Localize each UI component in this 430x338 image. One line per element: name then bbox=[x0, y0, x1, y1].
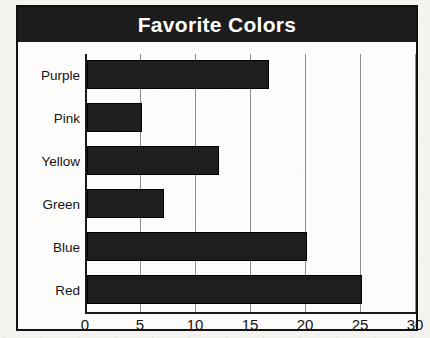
bar-series bbox=[87, 54, 417, 312]
x-tick-label: 0 bbox=[81, 316, 89, 333]
bar-row bbox=[87, 54, 417, 97]
x-tick-label: 25 bbox=[352, 316, 369, 333]
bar-green bbox=[87, 189, 164, 218]
bar-blue bbox=[87, 232, 307, 261]
bar-row bbox=[87, 140, 417, 183]
x-axis-tick-labels: 051015202530 bbox=[85, 316, 415, 338]
category-label: Purple bbox=[18, 54, 80, 97]
x-tick-label: 20 bbox=[297, 316, 314, 333]
bar-red bbox=[87, 275, 362, 304]
category-label: Blue bbox=[18, 226, 80, 269]
page-background: Favorite Colors Purple Pink Yellow Green… bbox=[0, 0, 430, 338]
bar-row bbox=[87, 269, 417, 312]
plot-area: Purple Pink Yellow Green Blue Red 051015… bbox=[18, 42, 416, 329]
x-tick-label: 10 bbox=[187, 316, 204, 333]
x-axis-baseline bbox=[85, 312, 416, 314]
chart-title-bar: Favorite Colors bbox=[18, 7, 416, 42]
y-axis-category-labels: Purple Pink Yellow Green Blue Red bbox=[18, 54, 80, 312]
chart-title: Favorite Colors bbox=[138, 13, 297, 37]
bar-pink bbox=[87, 103, 142, 132]
category-label: Green bbox=[18, 183, 80, 226]
bar-row bbox=[87, 183, 417, 226]
category-label: Red bbox=[18, 269, 80, 312]
x-tick-label: 30 bbox=[407, 316, 424, 333]
chart-figure-frame: Favorite Colors Purple Pink Yellow Green… bbox=[16, 5, 418, 331]
x-tick-label: 15 bbox=[242, 316, 259, 333]
bar-row bbox=[87, 226, 417, 269]
x-tick-label: 5 bbox=[136, 316, 144, 333]
bar-row bbox=[87, 97, 417, 140]
category-label: Pink bbox=[18, 97, 80, 140]
category-label: Yellow bbox=[18, 140, 80, 183]
bar-yellow bbox=[87, 146, 219, 175]
bar-purple bbox=[87, 60, 269, 89]
